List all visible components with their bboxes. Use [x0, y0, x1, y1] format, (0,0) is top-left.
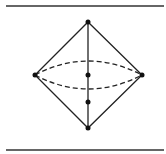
left-vertex — [33, 73, 38, 78]
bottom-vertex — [86, 126, 91, 131]
lower-mid-point — [86, 100, 91, 105]
center-point — [86, 73, 91, 78]
octahedron-diagram — [0, 0, 166, 154]
right-vertex — [140, 73, 145, 78]
top-vertex — [86, 20, 91, 25]
